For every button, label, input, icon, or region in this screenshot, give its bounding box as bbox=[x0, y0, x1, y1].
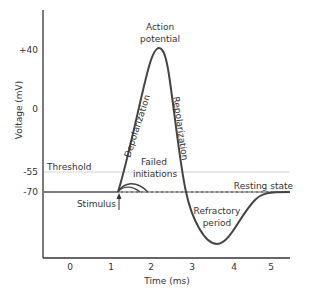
x-axis-title: Time (ms) bbox=[143, 276, 189, 286]
stimulus-arrowhead-icon bbox=[117, 193, 122, 199]
x-tick-label: 2 bbox=[148, 262, 154, 272]
failed-initiations-label: Failed bbox=[141, 157, 167, 167]
action-potential-label: potential bbox=[140, 34, 180, 44]
y-tick-label: -55 bbox=[23, 167, 38, 177]
x-tick-label: 0 bbox=[67, 262, 73, 272]
resting-state-label: Resting state bbox=[234, 181, 294, 191]
threshold-label: Threshold bbox=[46, 162, 91, 172]
repolarization-label: Repolarization bbox=[171, 96, 190, 161]
action-potential-label: Action bbox=[146, 22, 174, 32]
y-axis-title: Voltage (mV) bbox=[14, 81, 24, 140]
y-tick-label: -70 bbox=[23, 187, 38, 197]
refractory-period-label: period bbox=[203, 218, 232, 228]
x-tick-label: 1 bbox=[108, 262, 114, 272]
y-tick-label: 0 bbox=[32, 104, 38, 114]
refractory-period-label: Refractory bbox=[194, 206, 241, 216]
y-tick-label: +40 bbox=[19, 45, 38, 55]
x-tick-label: 3 bbox=[189, 262, 195, 272]
stimulus-label: Stimulus bbox=[77, 199, 116, 209]
x-tick-label: 4 bbox=[231, 262, 237, 272]
depolarization-label: Depolarization bbox=[122, 93, 152, 158]
x-tick-label: 5 bbox=[268, 262, 274, 272]
action-potential-diagram: +40 0 -55 -70 0 1 2 3 4 5 Time (ms) Volt… bbox=[0, 0, 314, 297]
failed-initiations-label: initiations bbox=[133, 169, 177, 179]
